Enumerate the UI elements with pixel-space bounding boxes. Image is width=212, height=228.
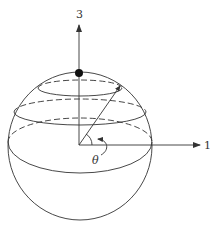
latitude-circle-top [38, 80, 122, 96]
north-pole-dot [75, 69, 83, 77]
equator [8, 118, 152, 173]
axis-3-label: 3 [76, 8, 83, 21]
theta-arc [86, 134, 92, 145]
sphere-outline [8, 72, 152, 220]
sphere-diagram: 3 1 θ [0, 0, 212, 228]
latitude-circle-middle [14, 99, 146, 125]
theta-curved-arrow [98, 139, 107, 155]
theta-label: θ [92, 154, 99, 167]
axis-1-label: 1 [204, 139, 211, 152]
